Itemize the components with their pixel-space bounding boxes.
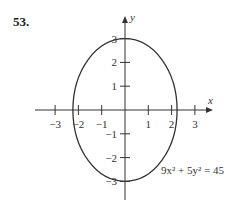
y-tick-label: −3 [105, 175, 117, 187]
y-tick-label: −1 [105, 128, 117, 140]
x-tick-label: 1 [146, 118, 152, 130]
x-tick-label: −3 [49, 118, 61, 130]
y-tick-label: −2 [105, 152, 117, 164]
y-tick-label: 1 [112, 80, 118, 92]
x-tick-label: 3 [192, 118, 198, 130]
x-tick-label: −2 [73, 118, 85, 130]
y-tick-label: 2 [112, 56, 118, 68]
x-axis-arrow [206, 107, 213, 113]
equation-label: 9x² + 5y² = 45 [161, 164, 225, 176]
y-tick-label: 3 [112, 33, 118, 45]
chart: xy−3−2−1123−3−2−11239x² + 5y² = 45 [0, 0, 234, 211]
y-axis-label: y [129, 11, 135, 23]
y-axis-arrow [122, 16, 128, 23]
x-tick-label: 2 [169, 118, 175, 130]
x-axis-label: x [207, 94, 213, 106]
